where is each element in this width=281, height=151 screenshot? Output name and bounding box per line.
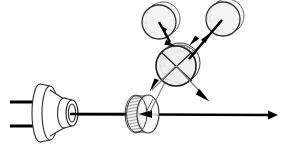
optical-diagram-canvas <box>0 0 281 151</box>
arrowhead-upper-right-return <box>190 36 200 46</box>
beam-splitter-lower <box>125 95 159 133</box>
mirror-upper-left <box>142 2 180 39</box>
beam-center-to-upper-right <box>189 20 222 59</box>
optical-diagram-root <box>0 0 281 151</box>
arrowhead-exit-lower-right <box>196 89 210 102</box>
arrowhead-main-beam <box>268 111 278 120</box>
arrowhead-exit-lower-left <box>150 79 160 93</box>
